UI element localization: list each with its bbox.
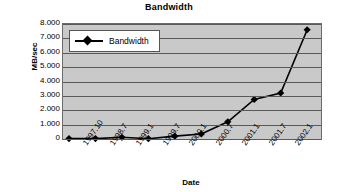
legend: Bandwidth xyxy=(69,30,160,52)
bandwidth-chart: Bandwidth MB/sec 8.0007.0006.0005.0004.0… xyxy=(0,0,338,192)
x-axis-tick-labels: 1997.101998.71999.11999.72000.12000.7200… xyxy=(0,0,338,192)
x-axis-title: Date xyxy=(62,178,320,187)
legend-label-bandwidth: Bandwidth xyxy=(109,36,149,46)
x-tick-label: 1998.7 xyxy=(108,122,129,147)
x-tick-label: 1997.10 xyxy=(81,118,105,147)
x-tick-label: 2001.1 xyxy=(240,122,261,147)
x-tick-label: 2000.1 xyxy=(187,122,208,147)
diamond-marker-icon xyxy=(83,36,93,46)
x-tick-label: 2001.7 xyxy=(267,122,288,147)
x-tick-label: 1999.1 xyxy=(134,122,155,147)
x-tick-label: 1999.7 xyxy=(161,122,182,147)
x-tick-label: 2000.7 xyxy=(214,122,235,147)
legend-marker-sample xyxy=(75,36,103,46)
x-tick-label: 2002.1 xyxy=(293,122,314,147)
